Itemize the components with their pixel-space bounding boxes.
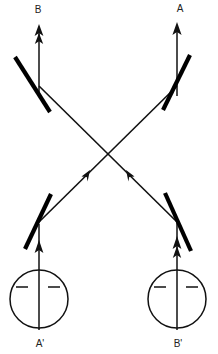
label-b-prime-bottom: B' — [174, 338, 183, 349]
label-a-top: A — [177, 3, 184, 14]
label-b-top: B — [35, 4, 42, 15]
optics-ray-diagram: B A A' B' — [0, 0, 218, 354]
ray-diagram-canvas: B A A' B' — [0, 0, 218, 354]
label-a-prime-bottom: A' — [36, 338, 45, 349]
mirror-bottom-left — [25, 194, 51, 249]
mirror-top-left — [15, 57, 50, 112]
